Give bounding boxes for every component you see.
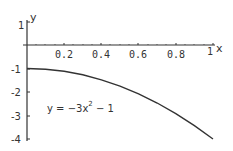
x-axis-label: x [216, 42, 223, 55]
y-tick-label: -1 [11, 64, 21, 75]
y-tick-label: -2 [11, 87, 21, 98]
x-tick-label: 0.2 [55, 49, 73, 60]
y-axis-label: y [30, 11, 37, 24]
x-tick-label: 0.4 [92, 49, 110, 60]
equation-main: y = −3x [47, 103, 88, 114]
x-tick-label: 1 [207, 46, 213, 57]
y-tick-label: -4 [11, 134, 21, 145]
y-tick-label: -3 [11, 111, 21, 122]
x-tick-label: 0.8 [167, 49, 185, 60]
y-tick-label: 1 [18, 20, 24, 31]
chart: 0.2 0.4 0.6 0.8 1 x y 1 -1 -2 -3 -4 y = … [0, 0, 233, 151]
equation-tail: − 1 [93, 103, 114, 114]
x-tick-label: 0.6 [129, 49, 147, 60]
equation-annotation: y = −3x2 − 1 [47, 100, 114, 114]
